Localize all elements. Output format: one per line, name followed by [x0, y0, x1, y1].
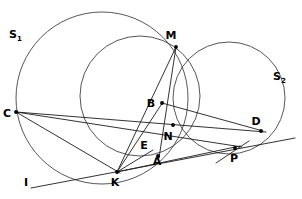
- label-point-e: E: [140, 139, 148, 152]
- point-m-marker: [174, 45, 178, 49]
- label-point-p: P: [230, 152, 238, 165]
- label-point-b: B: [147, 97, 155, 110]
- point-p-marker: [233, 146, 237, 150]
- point-k-marker: [115, 170, 119, 174]
- label-point-a: A: [153, 155, 162, 168]
- segment-c-p: [16, 112, 242, 147]
- label-point-k: K: [111, 176, 120, 189]
- label-point-n: N: [163, 130, 172, 143]
- geometry-canvas: M N B C D E A K P I S1 S2: [0, 0, 302, 199]
- label-point-m: M: [166, 29, 177, 42]
- segment-c-k: [16, 112, 120, 173]
- geometry-figure: M N B C D E A K P I S1 S2: [0, 0, 302, 199]
- label-circle-s1: S1: [9, 28, 22, 43]
- line-i-k-d: [31, 138, 295, 188]
- circle-s2: [173, 42, 285, 154]
- label-s1-base: S: [9, 28, 17, 41]
- circle-s1: [16, 12, 188, 184]
- label-s2-subscript: 2: [281, 77, 286, 85]
- point-b-marker: [160, 101, 164, 105]
- label-point-c: C: [3, 107, 11, 120]
- point-d-marker: [259, 129, 263, 133]
- segment-b-d: [162, 103, 263, 131]
- point-c-marker: [14, 110, 18, 114]
- label-circle-s2: S2: [273, 70, 286, 85]
- label-line-i: I: [24, 176, 28, 189]
- label-s1-subscript: 1: [17, 35, 22, 43]
- point-n-marker: [171, 123, 175, 127]
- label-point-d: D: [251, 115, 260, 128]
- label-s2-base: S: [273, 70, 281, 83]
